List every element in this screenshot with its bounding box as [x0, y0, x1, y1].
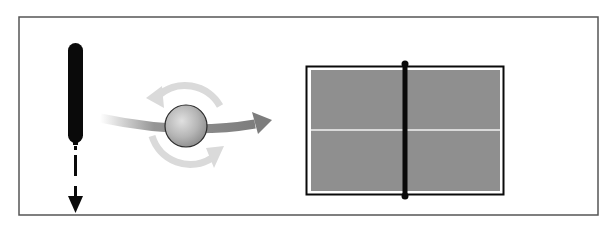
table-net	[402, 61, 409, 200]
net-post-top	[402, 61, 409, 68]
paddle-blade	[68, 43, 83, 143]
ball	[165, 105, 207, 147]
table	[307, 61, 504, 200]
net-post-bottom	[402, 193, 409, 200]
paddle	[68, 43, 83, 145]
diagram-canvas	[0, 0, 612, 237]
paddle-handle	[73, 140, 78, 145]
